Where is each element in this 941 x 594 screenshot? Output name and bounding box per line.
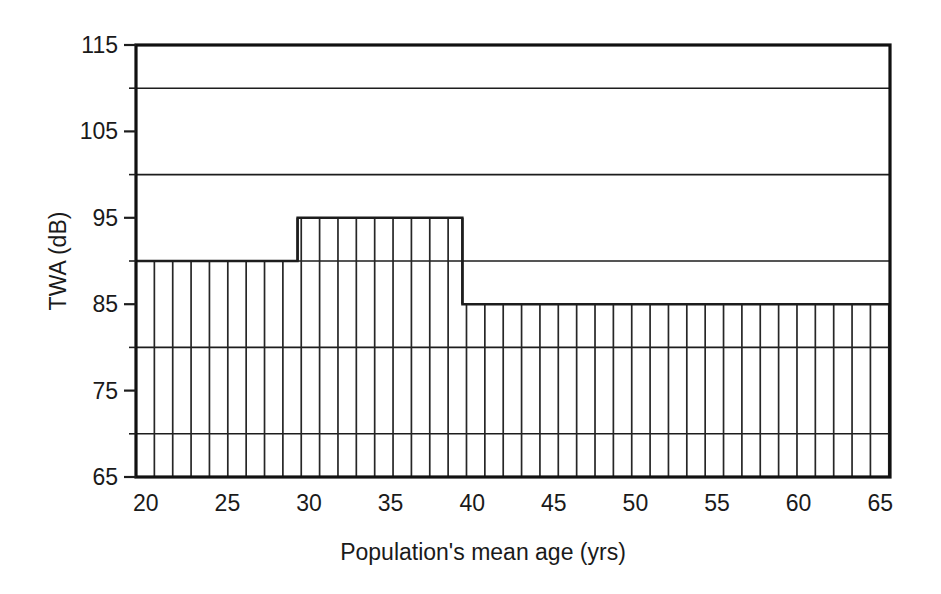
x-tick-label-55: 55: [704, 490, 730, 516]
y-axis-title: TWA (dB): [45, 212, 71, 311]
y-tick-label-115: 115: [81, 32, 118, 58]
x-tick-label-25: 25: [215, 490, 241, 516]
x-tick-label-60: 60: [786, 490, 812, 516]
y-tick-label-85: 85: [92, 291, 118, 317]
x-axis-title: Population's mean age (yrs): [340, 539, 626, 565]
x-tick-label-40: 40: [459, 490, 485, 516]
x-tick-label-50: 50: [623, 490, 649, 516]
x-tick-label-20: 20: [133, 490, 159, 516]
y-tick-label-105: 105: [80, 118, 118, 144]
chart-svg: 65758595105115 20253035404550556065 Popu…: [0, 0, 941, 594]
x-tick-label-65: 65: [867, 490, 893, 516]
chart-figure: 65758595105115 20253035404550556065 Popu…: [0, 0, 941, 594]
y-tick-label-95: 95: [92, 205, 118, 231]
x-tick-label-30: 30: [296, 490, 322, 516]
x-tick-label-45: 45: [541, 490, 567, 516]
x-tick-label-35: 35: [378, 490, 404, 516]
y-tick-label-65: 65: [92, 464, 118, 490]
y-tick-label-75: 75: [92, 378, 118, 404]
